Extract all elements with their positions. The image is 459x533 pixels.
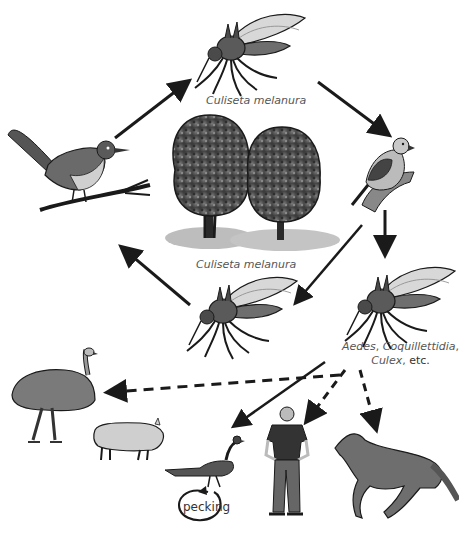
arrow-top-mosquito-to-finch <box>318 82 385 132</box>
finch-bird-icon <box>352 138 415 212</box>
human-icon <box>266 407 308 514</box>
emu-icon <box>12 348 98 442</box>
genus-culex: Culex <box>371 354 402 367</box>
transmission-cycle-diagram: Culiseta melanura Culiseta melanura Aede… <box>0 0 459 533</box>
label-mosquito-center: Culiseta melanura <box>196 258 296 271</box>
mosquito-top-icon <box>195 14 305 96</box>
horse-icon <box>335 434 458 518</box>
arrow-bottom-left-mosquito-to-bird <box>125 250 190 305</box>
label-pecking: pecking <box>183 500 230 514</box>
mosquito-bottom-left-icon <box>187 277 297 359</box>
arrow-bird-to-top-mosquito <box>115 84 185 138</box>
trees-icon <box>165 115 340 251</box>
arrow-mosquito-to-emu-dashed <box>112 375 340 392</box>
genus-aedes: Aedes <box>342 340 376 353</box>
genus-coquillettidia: Coquillettidia <box>383 340 456 353</box>
label-etc: etc. <box>409 354 430 367</box>
wren-bird-icon <box>8 130 150 210</box>
label-mosquito-top: Culiseta melanura <box>206 94 306 107</box>
pig-icon <box>94 418 164 460</box>
arrow-mosquito-to-horse-dashed <box>360 370 375 425</box>
label-bridge-mosquitoes: Aedes, Coquillettidia, Culex, etc. <box>342 340 459 368</box>
mosquito-bottom-right-icon <box>345 267 455 349</box>
